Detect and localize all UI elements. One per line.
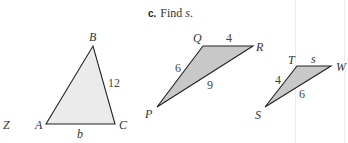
vertex-label-r: R: [256, 41, 263, 53]
question-letter: c.: [148, 8, 156, 19]
vertex-label-b: B: [89, 31, 96, 43]
vertex-label-w: W: [336, 61, 346, 73]
side-label-bc: 12: [108, 77, 120, 89]
triangle-pqr: [157, 46, 253, 107]
triangle-abc: [46, 46, 115, 124]
vertex-label-q: Q: [193, 32, 202, 44]
vertex-label-a: A: [35, 119, 42, 131]
vertex-label-c: C: [119, 119, 127, 131]
side-label-qr: 4: [226, 32, 232, 44]
vertex-label-s: S: [255, 109, 261, 121]
stray-label: Z: [3, 119, 10, 131]
triangles-drawing: [0, 0, 348, 143]
side-label-pq: 6: [175, 62, 181, 74]
vertex-label-p: P: [145, 108, 152, 120]
figure-canvas: c.Find s. Z B A C 12 b Q R P 4 6 9 T W S…: [0, 0, 348, 143]
side-label-st: 4: [275, 74, 281, 86]
side-label-ac: b: [77, 128, 83, 140]
side-label-pr: 9: [207, 79, 213, 91]
question-prompt: c.Find s.: [148, 6, 193, 21]
side-label-sw: 6: [299, 88, 305, 100]
vertex-label-t: T: [288, 54, 295, 66]
question-text: Find: [160, 6, 182, 20]
side-label-tw: s: [311, 53, 316, 65]
question-period: .: [190, 6, 193, 20]
